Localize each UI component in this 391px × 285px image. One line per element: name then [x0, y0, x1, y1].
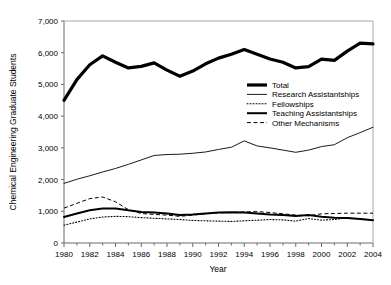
- x-tick-label: 2002: [338, 250, 356, 259]
- chart-axes: [64, 21, 373, 243]
- y-tick-label: 7,000: [38, 17, 59, 26]
- x-tick-label: 2004: [364, 250, 382, 259]
- x-tick-label: 1980: [55, 250, 73, 259]
- x-tick-label: 1986: [132, 250, 150, 259]
- y-tick-label: 4,000: [38, 112, 59, 121]
- y-tick-label: 2,000: [38, 176, 59, 185]
- x-axis-title: Year: [209, 264, 226, 274]
- x-tick-label: 1998: [287, 250, 305, 259]
- x-tick-label: 1988: [158, 250, 176, 259]
- x-tick-label: 1990: [184, 250, 202, 259]
- data-series-group: [64, 43, 373, 225]
- legend-label: Other Mechanisms: [272, 119, 339, 128]
- y-axis-ticks: 01,0002,0003,0004,0005,0006,0007,000: [38, 17, 64, 248]
- chart-figure: 01,0002,0003,0004,0005,0006,0007,000 198…: [0, 0, 391, 285]
- x-tick-label: 1994: [235, 250, 253, 259]
- y-tick-label: 3,000: [38, 144, 59, 153]
- x-tick-label: 1992: [210, 250, 228, 259]
- legend-label: Teaching Assistantships: [272, 109, 357, 118]
- chart-legend: TotalResearch AssistantshipsFellowshipsT…: [247, 81, 359, 128]
- x-tick-label: 2000: [313, 250, 331, 259]
- x-axis-ticks: 1980198219841986198819901992199419961998…: [55, 243, 382, 259]
- y-tick-label: 0: [54, 239, 59, 248]
- y-axis-title: Chemical Engineering Graduate Students: [8, 54, 18, 211]
- legend-label: Total: [272, 81, 289, 90]
- x-tick-label: 1982: [81, 250, 99, 259]
- y-tick-label: 6,000: [38, 49, 59, 58]
- line-chart: 01,0002,0003,0004,0005,0006,0007,000 198…: [0, 0, 391, 285]
- y-tick-label: 5,000: [38, 80, 59, 89]
- legend-label: Fellowships: [272, 100, 314, 109]
- x-tick-label: 1996: [261, 250, 279, 259]
- y-tick-label: 1,000: [38, 207, 59, 216]
- x-tick-label: 1984: [107, 250, 125, 259]
- series-line: [64, 127, 373, 183]
- series-line: [64, 208, 373, 220]
- legend-label: Research Assistantships: [272, 90, 359, 99]
